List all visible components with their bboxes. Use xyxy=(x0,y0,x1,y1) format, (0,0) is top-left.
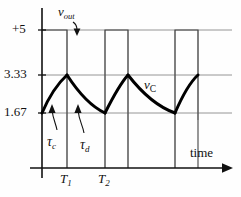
vc-charge-2 xyxy=(105,75,128,113)
tau-c-label: τc xyxy=(47,133,56,151)
vc-discharge-1 xyxy=(67,75,105,113)
tau-d-label: τd xyxy=(80,136,90,154)
waveform-canvas xyxy=(0,0,241,197)
waveform-figure: +5 3.33 1.67 vout vC τc τd T1 T2 time xyxy=(0,0,241,197)
vc-label-sub: C xyxy=(150,84,156,94)
x-tick-label-t2: T2 xyxy=(98,170,110,188)
x-axis-label: time xyxy=(190,146,213,159)
gridlines-horizontal xyxy=(42,30,232,113)
x-tick-label-t2-sub: 2 xyxy=(105,178,110,188)
vout-label: vout xyxy=(58,3,75,20)
x-tick-label-t1: T1 xyxy=(60,170,72,188)
vc-charge-3 xyxy=(175,75,198,113)
vout-pulse-2 xyxy=(105,30,128,168)
x-axis-arrowhead xyxy=(222,163,233,173)
tau-c-label-sub: c xyxy=(52,141,56,151)
y-tick-label-167v: 1.67 xyxy=(4,105,27,118)
vout-waveform xyxy=(42,30,198,168)
x-tick-label-t1-sub: 1 xyxy=(67,178,72,188)
y-tick-label-333v: 3.33 xyxy=(4,67,27,80)
tau-d-pointer-arrowhead xyxy=(74,104,81,113)
vout-label-sub: out xyxy=(64,11,75,21)
vc-charge-1 xyxy=(42,75,67,113)
tau-d-label-sub: d xyxy=(85,144,90,154)
vout-pointer-arrowhead xyxy=(74,29,81,37)
tau-c-pointer-arrowhead xyxy=(48,104,55,113)
vc-label: vC xyxy=(144,76,156,94)
y-tick-label-5v: +5 xyxy=(12,22,26,35)
